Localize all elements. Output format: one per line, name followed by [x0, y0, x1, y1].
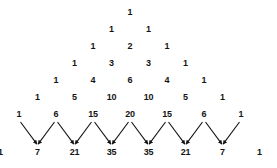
triangle-cell-r2-c0: 1	[91, 42, 96, 51]
triangle-cell-r2-c2: 1	[165, 42, 170, 51]
triangle-cell-r5-c1: 5	[72, 93, 77, 102]
triangle-cell-r7-c1: 7	[35, 148, 40, 157]
triangle-cell-r7-c4: 35	[144, 148, 154, 157]
triangle-cell-r2-c1: 2	[128, 42, 133, 51]
triangle-cell-r3-c2: 3	[146, 59, 151, 68]
triangle-cell-r4-c1: 4	[91, 76, 96, 85]
triangle-cell-r4-c3: 4	[165, 76, 170, 85]
triangle-cell-r6-c2: 15	[88, 110, 98, 119]
triangle-cell-r0-c0: 1	[128, 8, 133, 17]
triangle-cell-r4-c4: 1	[202, 76, 207, 85]
triangle-cell-r6-c4: 15	[162, 110, 172, 119]
triangle-cell-r3-c3: 1	[183, 59, 188, 68]
triangle-cell-r6-c5: 6	[202, 110, 207, 119]
number-layer: 1111211331146411510105116152015611721353…	[0, 0, 277, 168]
triangle-cell-r7-c7: 1	[257, 148, 262, 157]
triangle-cell-r6-c0: 1	[17, 110, 22, 119]
triangle-cell-r7-c6: 7	[220, 148, 225, 157]
triangle-cell-r6-c3: 20	[125, 110, 135, 119]
triangle-cell-r5-c3: 10	[144, 93, 154, 102]
triangle-cell-r1-c1: 1	[146, 25, 151, 34]
triangle-cell-r4-c0: 1	[54, 76, 59, 85]
triangle-cell-r1-c0: 1	[109, 25, 114, 34]
triangle-cell-r7-c0: 1	[0, 148, 3, 157]
triangle-cell-r5-c0: 1	[35, 93, 40, 102]
triangle-cell-r6-c1: 6	[54, 110, 59, 119]
triangle-cell-r3-c1: 3	[109, 59, 114, 68]
triangle-cell-r3-c0: 1	[72, 59, 77, 68]
triangle-cell-r4-c2: 6	[128, 76, 133, 85]
triangle-cell-r6-c6: 1	[239, 110, 244, 119]
triangle-cell-r7-c5: 21	[181, 148, 191, 157]
pascals-triangle-figure: 1111211331146411510105116152015611721353…	[0, 0, 277, 168]
triangle-cell-r5-c2: 10	[107, 93, 117, 102]
triangle-cell-r7-c2: 21	[70, 148, 80, 157]
triangle-cell-r7-c3: 35	[107, 148, 117, 157]
triangle-cell-r5-c5: 1	[220, 93, 225, 102]
triangle-cell-r5-c4: 5	[183, 93, 188, 102]
